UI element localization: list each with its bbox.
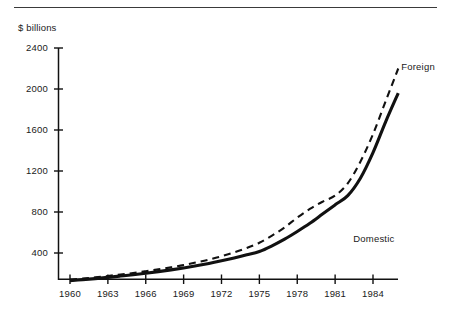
y-axis-tick-label: 800 [10,206,48,217]
y-axis-tick-label: 1600 [10,124,48,135]
x-axis-tick-label: 1963 [88,288,128,299]
x-axis-tick-label: 1978 [277,288,317,299]
y-axis-tick-label: 400 [10,247,48,258]
chart-figure: $ billions 2400200016001200800400 196019… [0,0,452,313]
plot-area [0,0,452,313]
y-axis-tick-label: 2400 [10,42,48,53]
x-axis-tick-label: 1960 [50,288,90,299]
x-axis-tick-label: 1984 [353,288,393,299]
x-axis-tick-label: 1975 [239,288,279,299]
series-line-domestic [70,93,398,281]
y-axis-tick-label: 1200 [10,165,48,176]
series-line-foreign [70,69,398,280]
x-axis-tick-label: 1972 [202,288,242,299]
series-label-domestic: Domestic [353,233,394,244]
axis-lines [59,48,399,280]
x-axis-tick-label: 1969 [164,288,204,299]
series-label-foreign: Foreign [401,61,435,72]
y-axis-tick-label: 2000 [10,83,48,94]
x-axis-tick-label: 1966 [126,288,166,299]
x-axis-tick-label: 1981 [315,288,355,299]
